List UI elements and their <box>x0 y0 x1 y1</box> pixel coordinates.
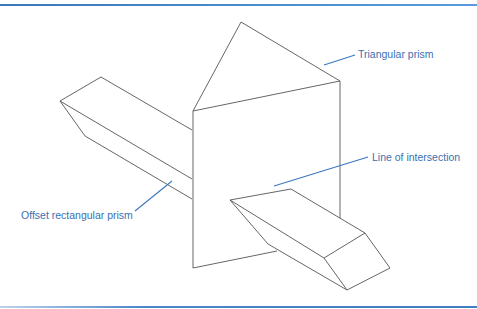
offset-rectangular-prism-left <box>60 77 192 199</box>
triangular-prism <box>193 22 340 268</box>
bottom-rule <box>0 306 477 308</box>
offset-rectangular-prism-right <box>230 189 390 290</box>
leader-offset-rectangular-prism <box>135 181 172 211</box>
leader-triangular-prism <box>324 55 355 65</box>
label-offset-rectangular-prism: Offset rectangular prism <box>21 210 133 221</box>
label-triangular-prism: Triangular prism <box>358 49 433 60</box>
label-line-of-intersection: Line of intersection <box>372 152 460 163</box>
leader-line-of-intersection <box>274 157 368 186</box>
